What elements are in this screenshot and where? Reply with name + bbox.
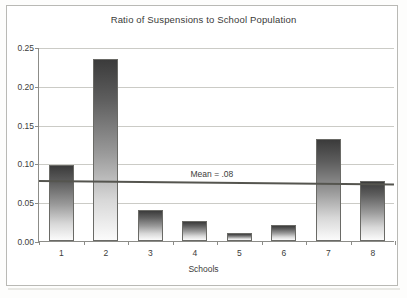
y-tick-label: 0.10 [17, 159, 34, 169]
bar[interactable] [360, 181, 385, 241]
y-tick-label: 0.25 [17, 43, 34, 53]
bar[interactable] [227, 233, 252, 241]
bar[interactable] [182, 221, 207, 241]
x-tick-mark [306, 241, 307, 245]
y-tick-label: 0.05 [17, 198, 34, 208]
x-tick-mark [351, 241, 352, 245]
x-tick-label: 2 [103, 248, 108, 258]
x-tick-label: 7 [326, 248, 331, 258]
x-tick-mark [262, 241, 263, 245]
mean-line-label: Mean = .08 [189, 169, 236, 179]
x-axis-title: Schools [0, 264, 407, 274]
bar[interactable] [138, 210, 163, 241]
y-tick-label: 0.15 [17, 121, 34, 131]
chart-title: Ratio of Suspensions to School Populatio… [0, 14, 407, 25]
plot-wrapper: 0.000.050.100.150.200.25 Mean = .08 1234… [38, 48, 394, 242]
bar[interactable] [271, 225, 296, 241]
x-tick-label: 1 [59, 248, 64, 258]
x-tick-mark [217, 241, 218, 245]
x-tick-mark [173, 241, 174, 245]
bar[interactable] [93, 59, 118, 241]
x-tick-mark [84, 241, 85, 245]
x-tick-mark [395, 241, 396, 245]
x-tick-label: 5 [237, 248, 242, 258]
x-tick-label: 3 [148, 248, 153, 258]
page-frame-shadow [8, 288, 400, 290]
plot-area: 0.000.050.100.150.200.25 Mean = .08 1234… [38, 48, 394, 242]
bar[interactable] [49, 165, 74, 241]
y-tick-label: 0.20 [17, 82, 34, 92]
x-tick-mark [128, 241, 129, 245]
y-tick-label: 0.00 [17, 237, 34, 247]
chart-figure: Ratio of Suspensions to School Populatio… [0, 0, 407, 298]
x-tick-mark [39, 241, 40, 245]
bar[interactable] [316, 139, 341, 241]
x-tick-label: 6 [281, 248, 286, 258]
x-tick-label: 8 [370, 248, 375, 258]
x-tick-label: 4 [192, 248, 197, 258]
bars-group [39, 48, 394, 241]
